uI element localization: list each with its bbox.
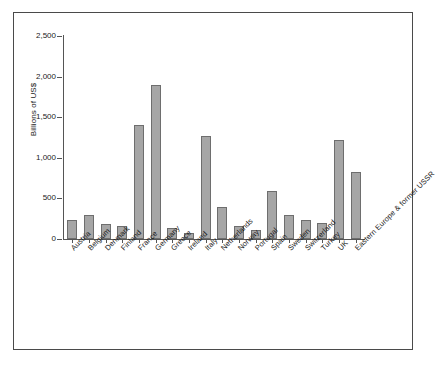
y-tick-label: 0 [52,234,56,243]
y-tick-label: 500 [43,193,56,202]
y-tick-label: 1,500 [36,112,56,121]
y-tick-mark [57,36,62,37]
y-tick-mark [57,158,62,159]
y-tick-mark [57,117,62,118]
bar [351,172,361,239]
bar [67,220,77,239]
y-tick-mark [57,77,62,78]
y-tick-mark [57,198,62,199]
bar [134,125,144,239]
bar [151,85,161,239]
y-axis-title: Billions of US$ [29,50,38,170]
y-tick-label: 2,500 [36,31,56,40]
bar [217,207,227,239]
y-tick-mark [57,239,62,240]
bar [201,136,211,239]
bar-series [64,36,364,239]
y-tick-label: 1,000 [36,153,56,162]
y-tick-label: 2,000 [36,72,56,81]
